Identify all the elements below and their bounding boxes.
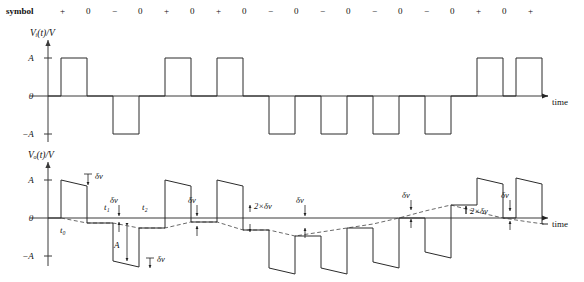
droop-annotation-3: δv <box>146 254 165 268</box>
symbol-10: − <box>320 6 325 16</box>
droop-double-annotation-2: 2×δv <box>466 206 488 216</box>
time-mark-t0: t₀ <box>60 225 66 235</box>
symbol-2: − <box>112 6 117 16</box>
waveform-figure: symbol + 0 − 0 + 0 + 0 − 0 − 0 − 0 − 0 +… <box>0 0 584 282</box>
droop-annotation-7: δv <box>501 190 510 230</box>
symbol-13: 0 <box>398 6 403 16</box>
droop-annotation-4: δv <box>188 195 197 236</box>
droop-double-label-2: 2×δv <box>470 206 488 216</box>
symbol-1: 0 <box>86 6 91 16</box>
symbol-0: + <box>60 6 65 16</box>
symbol-row: symbol + 0 − 0 + 0 + 0 − 0 − 0 − 0 − 0 +… <box>6 6 533 16</box>
lower-y-axis-arrow <box>45 162 50 168</box>
upper-time-label: time <box>552 97 568 107</box>
waveform-svg: symbol + 0 − 0 + 0 + 0 − 0 − 0 − 0 − 0 +… <box>0 0 584 282</box>
droop-label-1: δv <box>95 171 103 181</box>
lower-y-axis-label: Vₒ(t)/V <box>28 150 55 161</box>
symbol-16: + <box>476 6 481 16</box>
droop-annotation-5: δv <box>296 195 305 238</box>
symbol-3: 0 <box>138 6 143 16</box>
droop-label-5: δv <box>296 195 304 205</box>
droop-label-4: δv <box>188 195 196 205</box>
symbol-7: 0 <box>242 6 247 16</box>
lower-time-label: time <box>552 219 568 229</box>
symbol-4: + <box>164 6 169 16</box>
lower-tick-negA: −A <box>22 251 34 261</box>
time-mark-t2: t₂ <box>142 202 148 212</box>
lower-plot: Vₒ(t)/V time A 0 −A t₀ t₁ t₂ A δv <box>22 150 568 274</box>
upper-y-axis-arrow <box>45 40 50 46</box>
upper-y-axis-label: Vᵢ(t)/V <box>30 28 56 39</box>
lower-tick-zero: 0 <box>29 213 34 223</box>
droop-label-7: δv <box>501 190 509 200</box>
symbol-18: + <box>528 6 533 16</box>
droop-label-6: δv <box>402 190 410 200</box>
upper-plot: Vᵢ(t)/V time A 0 −A <box>22 28 568 142</box>
upper-tick-A: A <box>27 53 34 63</box>
droop-label-3: δv <box>157 254 165 264</box>
droop-annotation-1: δv <box>84 171 103 185</box>
symbol-9: 0 <box>294 6 299 16</box>
lower-waveform <box>48 178 548 274</box>
lower-tick-A: A <box>27 175 34 185</box>
droop-label-2: δv <box>110 195 118 205</box>
amplitude-bracket: A <box>113 226 127 261</box>
droop-annotation-2: δv <box>110 195 119 232</box>
upper-tick-zero: 0 <box>29 91 34 101</box>
symbol-14: − <box>424 6 429 16</box>
amplitude-label: A <box>113 240 120 250</box>
droop-double-annotation-1: 2×δv <box>250 201 272 232</box>
symbol-12: − <box>372 6 377 16</box>
symbol-6: + <box>216 6 221 16</box>
symbol-17: 0 <box>502 6 507 16</box>
symbol-row-label: symbol <box>6 6 34 16</box>
symbol-8: − <box>268 6 273 16</box>
droop-annotation-6: δv <box>402 190 411 228</box>
upper-tick-negA: −A <box>22 129 34 139</box>
symbol-5: 0 <box>190 6 195 16</box>
symbol-11: 0 <box>346 6 351 16</box>
symbol-15: 0 <box>450 6 455 16</box>
time-mark-t1: t₁ <box>104 202 110 212</box>
droop-double-label-1: 2×δv <box>254 201 272 211</box>
